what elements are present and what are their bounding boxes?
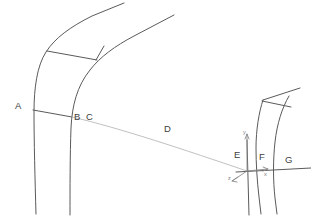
left-band-bend-rib	[47, 51, 97, 60]
faint-connector-line-cd-e	[72, 117, 247, 171]
callout-label-e: E	[234, 150, 240, 160]
line-drawing-figure	[0, 0, 311, 216]
callout-label-a: A	[15, 101, 21, 111]
callout-label-d: D	[164, 124, 171, 134]
left-band-outer-edge	[34, 3, 124, 214]
diagram-canvas: A B C D E F G y z x	[0, 0, 311, 216]
callout-label-f: F	[259, 152, 265, 162]
left-band-section-rib-ab	[33, 110, 72, 117]
connecting-line-group	[72, 117, 247, 171]
left-band-bend-rib-second	[96, 46, 104, 60]
z-axis-arrowhead	[232, 177, 238, 182]
axis-label-x: x	[264, 172, 267, 178]
callout-label-b: B	[74, 112, 80, 122]
right-band-top-rib	[262, 101, 291, 107]
axis-label-y: y	[243, 130, 246, 136]
right-band-top-flare	[263, 88, 300, 100]
axis-label-z: z	[228, 176, 231, 182]
callout-label-c: C	[86, 112, 93, 122]
callout-label-g: G	[285, 155, 292, 165]
left-band-group	[33, 3, 174, 215]
